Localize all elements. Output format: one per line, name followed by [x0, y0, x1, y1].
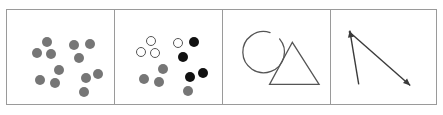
panel-1-dot-11	[93, 69, 103, 79]
panel-1-dot-array	[7, 10, 114, 104]
panel-2-dot-12	[183, 86, 193, 96]
panel-1-dot-10	[81, 73, 91, 83]
panel-1-dot-9	[50, 78, 60, 88]
panel-2-dot-array	[114, 10, 222, 104]
triangle-outline	[270, 42, 320, 84]
panel-3-canvas	[223, 10, 330, 104]
panel-1-dot-3	[46, 49, 56, 59]
panel-1-dot-6	[74, 53, 84, 63]
panel-2-dot-7	[158, 64, 168, 74]
panel-3-outline-shapes	[222, 10, 330, 104]
panel-2-dot-8	[139, 74, 149, 84]
panel-2-dot-5	[189, 37, 199, 47]
figure-frame	[6, 9, 437, 105]
panel-1-dot-12	[79, 87, 89, 97]
panel-2-dot-6	[178, 52, 188, 62]
panel-1-dot-8	[35, 75, 45, 85]
figure-root	[0, 0, 443, 115]
panel-2-dot-1	[146, 36, 156, 46]
panel-2-dot-4	[173, 38, 183, 48]
circle-outline	[243, 32, 285, 73]
panel-1-dot-1	[42, 37, 52, 47]
panel-2-dot-11	[198, 68, 208, 78]
panel-2-dot-3	[150, 48, 160, 58]
panel-2-dot-10	[185, 72, 195, 82]
panel-1-dot-5	[85, 39, 95, 49]
panel-1-dot-2	[32, 48, 42, 58]
panel-1-dot-7	[54, 65, 64, 75]
panel-4-canvas	[331, 10, 436, 104]
panel-4-crossed-arrows	[330, 10, 436, 104]
panel-2-dot-9	[154, 77, 164, 87]
panel-1-dot-4	[69, 40, 79, 50]
panel-2-dot-2	[136, 47, 146, 57]
